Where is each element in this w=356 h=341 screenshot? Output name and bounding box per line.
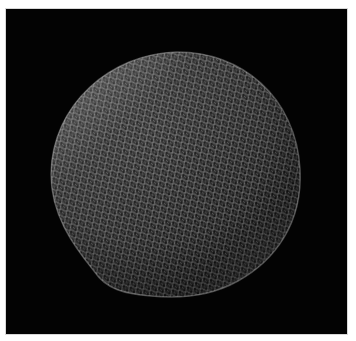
specimen-sphere-svg: [6, 9, 347, 334]
micrograph-frame: [6, 9, 347, 334]
specimen-sphere: [6, 9, 347, 334]
sphere-surface: [6, 9, 347, 334]
